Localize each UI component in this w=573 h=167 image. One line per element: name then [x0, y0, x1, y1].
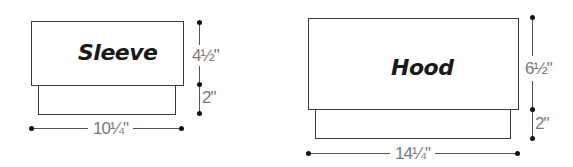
sleeve-dim-dot-left: [29, 126, 34, 131]
hood-dim-dot-right: [515, 151, 520, 156]
sleeve-label: Sleeve: [78, 40, 158, 65]
hood-dim-dot-left: [306, 151, 311, 156]
hood-width: 14¼": [390, 145, 435, 162]
hood-band-height: 2": [535, 115, 549, 132]
hood-main-height: 6½": [525, 56, 552, 81]
hood-label: Hood: [391, 55, 453, 80]
sleeve-width: 10¼": [88, 120, 133, 137]
hood-band-rect: [315, 108, 511, 139]
sleeve-height-line: [199, 22, 200, 113]
sleeve-dim-dot-top: [197, 20, 202, 25]
sleeve-dim-dot-right: [179, 126, 184, 131]
hood-dim-dot-top: [530, 15, 535, 20]
hood-dim-dot-mid: [530, 107, 535, 112]
hood-dim-dot-bottom: [530, 136, 535, 141]
sleeve-main-height: 4½": [192, 45, 219, 66]
sleeve-dim-dot-mid: [197, 82, 202, 87]
sleeve-cuff-rect: [38, 84, 176, 115]
sleeve-dim-dot-bottom: [197, 111, 202, 116]
sleeve-cuff-height: 2": [202, 89, 216, 106]
